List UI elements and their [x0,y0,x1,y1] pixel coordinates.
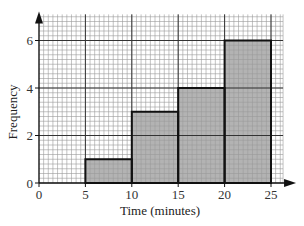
x-tick-label: 25 [265,187,278,202]
x-tick-label: 10 [125,187,138,202]
x-tick-label: 0 [36,187,43,202]
x-tick-label: 15 [172,187,185,202]
y-axis-label: Frequency [5,84,20,139]
y-axis-arrow-icon [35,11,43,23]
x-tick-label: 5 [82,187,89,202]
y-tick-label: 0 [27,176,34,191]
y-tick-label: 2 [27,128,34,143]
histogram-bar [132,112,178,183]
histogram-chart: 0246 0510152025 Time (minutes) Frequency [0,0,304,226]
y-axis-ticks: 0246 [27,33,40,191]
x-axis-label: Time (minutes) [120,203,200,218]
y-tick-label: 6 [27,33,34,48]
histogram-bar [225,41,271,184]
x-tick-label: 20 [218,187,231,202]
x-axis-arrow-icon [284,179,296,187]
histogram-bar [85,159,131,183]
x-axis-ticks: 0510152025 [36,183,278,202]
y-tick-label: 4 [27,81,34,96]
